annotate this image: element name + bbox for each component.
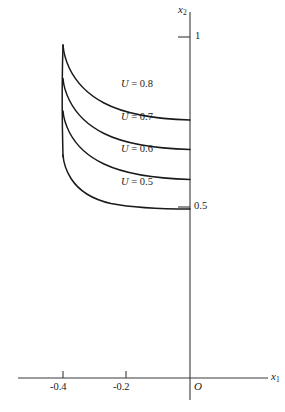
x-axis-label-subscript: 1 <box>276 375 280 384</box>
curve-label-u-0-7: U = 0.7 <box>121 112 153 123</box>
curve-label-u-0-5: U = 0.5 <box>121 177 153 188</box>
curve-label-u-0-7-eq: = <box>129 111 140 122</box>
origin-label: O <box>194 381 202 392</box>
curve-label-u-0-6-eq: = <box>129 143 140 154</box>
curve-label-u-0-6: U = 0.6 <box>121 144 153 155</box>
figure-plot-container: x2 x1 1 0.5 -0.4 -0.2 O U = 0.8 U = 0.7 … <box>0 0 285 412</box>
curve-label-u-0-8-var: U <box>121 78 129 89</box>
x-tick-label-neg-0-2: -0.2 <box>113 382 130 393</box>
y-tick-label-0-5: 0.5 <box>194 201 207 212</box>
curve-label-u-0-5-eq: = <box>129 176 140 187</box>
curve-label-u-0-6-value: 0.6 <box>140 143 153 154</box>
y-tick-label-1: 1 <box>195 31 200 42</box>
curve-label-u-0-7-var: U <box>121 111 129 122</box>
y-axis-label-subscript: 2 <box>183 8 187 17</box>
curve-label-u-0-8-value: 0.8 <box>140 78 153 89</box>
curve-label-u-0-8-eq: = <box>129 78 140 89</box>
curve-left-envelope <box>62 45 63 157</box>
curve-label-u-0-5-value: 0.5 <box>140 176 153 187</box>
y-axis-label: x2 <box>178 4 187 15</box>
curve-label-u-0-6-var: U <box>121 143 129 154</box>
plot-canvas <box>0 0 285 412</box>
x-axis-label: x1 <box>271 371 280 382</box>
curve-label-u-0-8: U = 0.8 <box>121 79 153 90</box>
curve-label-u-0-5-var: U <box>121 176 129 187</box>
x-tick-label-neg-0-4: -0.4 <box>50 382 67 393</box>
curve-label-u-0-7-value: 0.7 <box>140 111 153 122</box>
